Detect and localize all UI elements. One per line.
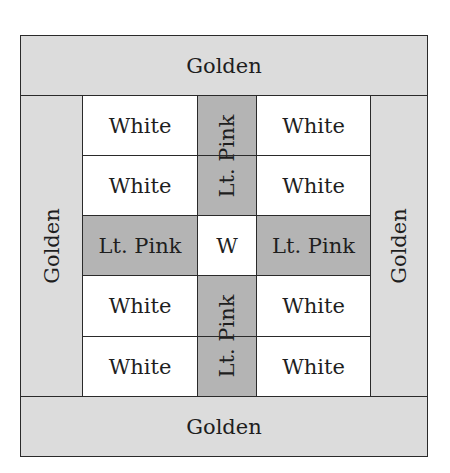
border-top-label: Golden <box>186 54 262 78</box>
cell-label: White <box>109 355 172 379</box>
cell-r1-left-white: White <box>82 95 198 156</box>
cell-label: White <box>282 114 345 138</box>
cell-label: White <box>109 294 172 318</box>
cell-r5-left-white: White <box>82 336 198 397</box>
border-right-golden: Golden <box>370 95 428 397</box>
cell-label: Lt. Pink <box>99 234 182 258</box>
strip-bottom-divider <box>197 336 257 337</box>
border-left-label: Golden <box>40 208 64 284</box>
cell-r2-right-white: White <box>256 155 371 216</box>
quilt-block: Golden Golden Golden Golden White White … <box>20 35 428 457</box>
cell-label: Lt. Pink <box>272 234 355 258</box>
cell-center-white: W <box>197 215 257 276</box>
border-left-golden: Golden <box>20 95 83 397</box>
border-bottom-label: Golden <box>186 415 262 439</box>
border-right-label: Golden <box>387 208 411 284</box>
cell-r3-right-lt-pink: Lt. Pink <box>256 215 371 276</box>
cell-r3-left-lt-pink: Lt. Pink <box>82 215 198 276</box>
cell-r5-right-white: White <box>256 336 371 397</box>
cell-label: White <box>282 355 345 379</box>
cell-label: White <box>109 174 172 198</box>
cell-label: White <box>282 174 345 198</box>
cell-label: W <box>216 234 238 258</box>
border-top-golden: Golden <box>20 35 428 96</box>
cell-r1-right-white: White <box>256 95 371 156</box>
cell-r4-left-white: White <box>82 275 198 337</box>
cell-label: White <box>282 294 345 318</box>
cell-r2-left-white: White <box>82 155 198 216</box>
strip-top-divider <box>197 155 257 156</box>
cell-label: White <box>109 114 172 138</box>
cell-r4-right-white: White <box>256 275 371 337</box>
border-bottom-golden: Golden <box>20 396 428 457</box>
